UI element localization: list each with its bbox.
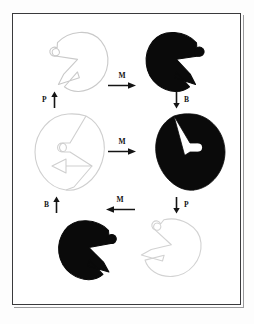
shape-middle-right — [148, 110, 230, 196]
transition-label-m-top: M — [118, 72, 125, 80]
transition-right-upper-b: B — [172, 91, 189, 109]
transition-label-m-bottom: M — [116, 196, 123, 204]
transition-top-m: M — [107, 72, 137, 90]
shape-top-right — [134, 24, 210, 96]
shape-bottom-left — [44, 212, 122, 288]
transition-label-b-lower: B — [44, 201, 49, 209]
shape-bottom-right — [136, 212, 214, 288]
arrow-right-icon-top — [107, 81, 137, 90]
transition-label-p-lower: P — [184, 201, 189, 209]
arrow-down-icon-right-upper — [172, 91, 181, 109]
transition-left-upper-p: P — [42, 91, 59, 109]
arrow-up-icon-left-upper — [50, 91, 59, 109]
transition-label-m-middle: M — [118, 138, 125, 146]
transition-middle-m: M — [107, 138, 137, 156]
figure-root: M P B — [0, 0, 254, 324]
shape-middle-left — [30, 110, 112, 196]
transition-bottom-m: M — [104, 196, 136, 214]
arrow-right-icon-middle — [107, 147, 137, 156]
transition-label-p-upper: P — [42, 96, 47, 104]
transition-label-b-upper: B — [184, 96, 189, 104]
